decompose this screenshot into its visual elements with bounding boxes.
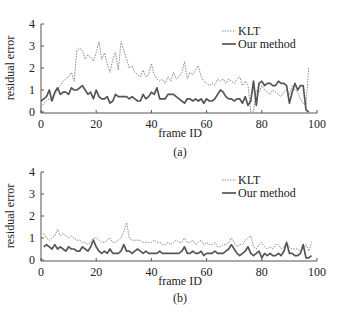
our-method-series-line: [41, 81, 309, 112]
y-tick-label: 1: [29, 231, 35, 245]
x-tick-label: 100: [308, 265, 326, 279]
x-axis-label: frame ID: [158, 126, 202, 140]
y-tick-label: 1: [29, 83, 35, 97]
klt-series-line: [41, 42, 309, 112]
legend-our-method-label: Our method: [238, 186, 296, 200]
x-tick-label: 20: [90, 265, 102, 279]
x-tick-label: 40: [145, 117, 157, 131]
x-tick-label: 0: [38, 265, 44, 279]
x-tick-label: 80: [256, 265, 268, 279]
chart-panel-a: 01234020406080100frame IDresidual error(…: [3, 17, 326, 159]
x-tick-label: 100: [308, 117, 326, 131]
y-tick-label: 4: [29, 17, 35, 31]
y-tick-label: 4: [29, 165, 35, 179]
y-tick-label: 2: [29, 209, 35, 223]
panel-label: (a): [173, 145, 186, 159]
y-tick-label: 3: [29, 39, 35, 53]
y-tick-label: 2: [29, 61, 35, 75]
x-tick-label: 60: [201, 117, 213, 131]
y-tick-label: 0: [29, 253, 35, 267]
x-tick-label: 60: [201, 265, 213, 279]
x-axis-label: frame ID: [158, 274, 202, 288]
chart-panel-b: 01234020406080100frame IDresidual error(…: [3, 165, 326, 305]
y-tick-label: 0: [29, 105, 35, 119]
figure: 01234020406080100frame IDresidual error(…: [0, 0, 345, 320]
x-tick-label: 40: [145, 265, 157, 279]
x-tick-label: 0: [38, 117, 44, 131]
y-tick-label: 3: [29, 187, 35, 201]
our-method-series-line: [44, 240, 312, 258]
x-tick-label: 20: [90, 117, 102, 131]
legend-klt-label: KLT: [238, 24, 261, 38]
y-axis-label: residual error: [3, 184, 17, 248]
y-axis-label: residual error: [3, 36, 17, 100]
x-tick-label: 80: [256, 117, 268, 131]
panel-label: (b): [173, 291, 187, 305]
klt-series-line: [44, 223, 312, 252]
legend-our-method-label: Our method: [238, 37, 296, 51]
legend-klt-label: KLT: [238, 173, 261, 187]
